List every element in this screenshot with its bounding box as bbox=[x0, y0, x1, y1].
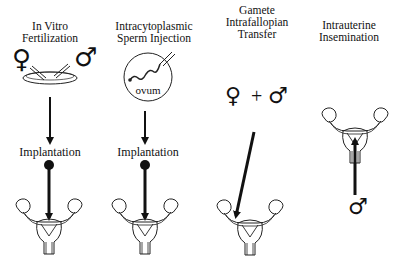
ivf-petri-dish bbox=[23, 64, 77, 84]
gift-transfer-arrow bbox=[236, 132, 254, 216]
icsi-ovum-circle bbox=[124, 52, 175, 101]
gift-uterus bbox=[217, 200, 283, 255]
diagram-canvas bbox=[0, 0, 400, 257]
